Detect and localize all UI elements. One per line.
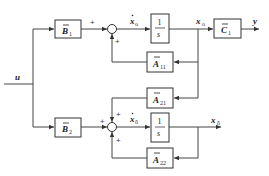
signal-xo-dot: x o (129, 15, 138, 27)
block-a21: A 21 (147, 88, 173, 108)
block-a11: A 11 (147, 52, 173, 72)
svg-text:o: o (135, 21, 138, 27)
block-diagram: u B 1 + + x o 1 s x o C 1 y (0, 0, 269, 176)
block-c1: C 1 (214, 19, 241, 38)
sum2-sign-b: + (116, 110, 121, 119)
signal-xobar-dot: x ō (129, 113, 138, 125)
svg-text:x: x (195, 16, 201, 26)
svg-text:ō: ō (135, 119, 138, 125)
svg-text:C: C (221, 25, 228, 35)
summing-junction-2 (108, 123, 117, 132)
svg-text:1: 1 (69, 31, 72, 37)
svg-text:21: 21 (160, 100, 166, 106)
svg-text:22: 22 (160, 160, 166, 166)
svg-text:11: 11 (160, 64, 166, 70)
input-label: u (15, 72, 20, 82)
signal-xobar: x ō (210, 115, 220, 126)
svg-text:ō: ō (217, 120, 220, 126)
svg-text:A: A (152, 59, 159, 69)
svg-text:1: 1 (228, 30, 231, 36)
svg-text:1: 1 (158, 117, 162, 126)
svg-text:s: s (157, 129, 160, 138)
svg-text:B: B (61, 26, 68, 36)
block-b1: B 1 (55, 20, 81, 38)
block-b2: B 2 (55, 118, 81, 137)
sum2-sign-a: + (100, 117, 105, 126)
block-a22: A 22 (147, 148, 173, 168)
svg-text:A: A (152, 95, 159, 105)
svg-text:2: 2 (69, 129, 72, 135)
output-label: y (252, 16, 258, 26)
svg-text:A: A (152, 155, 159, 165)
summing-junction-1 (108, 25, 117, 34)
sum1-sign-b: + (115, 37, 120, 46)
integrator-1: 1 s (151, 14, 169, 43)
signal-xo: x o (195, 16, 205, 27)
svg-text:o: o (202, 21, 205, 27)
svg-text:B: B (61, 124, 68, 134)
sum1-sign-a: + (90, 18, 95, 27)
svg-text:1: 1 (158, 18, 162, 27)
integrator-2: 1 s (151, 113, 169, 142)
svg-text:x: x (210, 115, 216, 125)
sum2-sign-c: + (116, 136, 121, 145)
svg-text:s: s (157, 30, 160, 39)
